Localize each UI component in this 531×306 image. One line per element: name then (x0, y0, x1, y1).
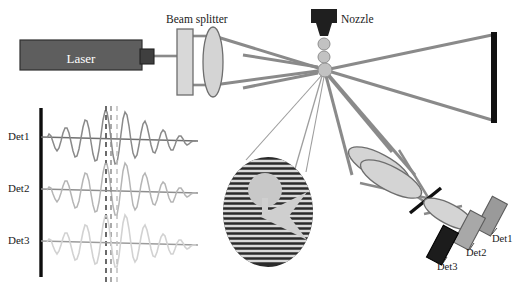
beam-splitter-label: Beam splitter (166, 14, 228, 26)
beam-splitter-block[interactable] (177, 29, 193, 95)
nozzle-tip (316, 23, 332, 36)
detector-label-det2: Det2 (466, 248, 486, 259)
signal-trace-det1 (47, 111, 196, 164)
inset-guide-right (306, 77, 324, 172)
laser-label: Laser (20, 52, 142, 65)
collimating-lens[interactable] (203, 27, 223, 97)
fringe-stripes (223, 161, 313, 261)
signal-trace-det2 (47, 163, 196, 215)
photodetector-det3[interactable] (426, 225, 458, 265)
beam-dump (491, 32, 497, 123)
trace-label-det1: Det1 (8, 131, 29, 142)
detector-label-det1: Det1 (492, 234, 512, 245)
droplet-2 (318, 51, 330, 63)
nozzle-label: Nozzle (341, 14, 374, 26)
droplet-1 (318, 38, 330, 50)
beam-probe-to-dump-upper (325, 35, 492, 70)
laser-output-head (140, 49, 154, 64)
signal-baseline-det2 (41, 189, 198, 193)
detector-label-det3: Det3 (437, 262, 457, 273)
probe-volume-droplet (318, 63, 332, 77)
collection-optics[interactable] (343, 139, 478, 236)
trace-label-det2: Det2 (8, 183, 29, 194)
diagram-canvas: Laser Beam splitter Nozzle Det1 Det2 Det… (0, 0, 531, 306)
nozzle-body[interactable] (311, 9, 337, 23)
signal-baseline-det3 (41, 241, 198, 245)
signal-plot (41, 106, 198, 284)
trace-label-det3: Det3 (8, 235, 29, 246)
signal-trace-det3 (47, 215, 196, 267)
beam-probe-to-dump-lower (325, 70, 492, 120)
fringe-inset (223, 157, 313, 267)
